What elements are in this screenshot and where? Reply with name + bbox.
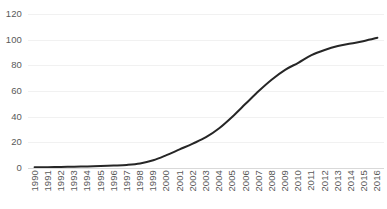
- series-layer: [28, 14, 384, 168]
- x-tick-label: 1990: [30, 170, 40, 192]
- x-tick-label: 2015: [359, 170, 369, 192]
- x-tick-label: 2016: [372, 170, 382, 192]
- x-tick-label: 1991: [43, 170, 53, 192]
- x-tick-label: 1997: [122, 170, 132, 192]
- y-tick-label: 0: [17, 163, 22, 173]
- y-tick-label: 40: [11, 112, 22, 122]
- x-tick-label: 2005: [227, 170, 237, 192]
- y-tick-label: 20: [11, 138, 22, 148]
- x-tick-label: 2008: [267, 170, 277, 192]
- x-tick-label: 2006: [241, 170, 251, 192]
- y-tick-label: 100: [6, 35, 22, 45]
- x-tick-label: 2002: [188, 170, 198, 192]
- x-tick-label: 2009: [280, 170, 290, 192]
- x-tick-label: 1996: [109, 170, 119, 192]
- y-axis: 020406080100120: [0, 0, 26, 209]
- x-axis: 1990199119921993199419951996199719981999…: [28, 170, 384, 209]
- x-tick-label: 1999: [148, 170, 158, 192]
- x-axis-line: [28, 168, 384, 169]
- series-line: [35, 38, 378, 168]
- x-tick-label: 1992: [56, 170, 66, 192]
- x-tick-label: 2013: [333, 170, 343, 192]
- plot-area: [28, 14, 384, 168]
- y-tick-label: 60: [11, 86, 22, 96]
- x-tick-label: 2010: [293, 170, 303, 192]
- y-tick-label: 80: [11, 61, 22, 71]
- x-tick-label: 1994: [82, 170, 92, 192]
- x-tick-label: 2000: [161, 170, 171, 192]
- x-tick-label: 2011: [306, 170, 316, 191]
- x-tick-label: 2003: [201, 170, 211, 192]
- x-tick-label: 1993: [69, 170, 79, 192]
- x-tick-label: 1998: [135, 170, 145, 192]
- line-chart: 020406080100120 199019911992199319941995…: [0, 0, 387, 209]
- x-tick-label: 2004: [214, 170, 224, 192]
- x-tick-label: 2001: [175, 170, 185, 192]
- x-tick-label: 2014: [346, 170, 356, 192]
- x-tick-label: 1995: [96, 170, 106, 192]
- x-tick-label: 2007: [254, 170, 264, 192]
- y-tick-label: 120: [6, 9, 22, 19]
- x-tick-label: 2012: [320, 170, 330, 192]
